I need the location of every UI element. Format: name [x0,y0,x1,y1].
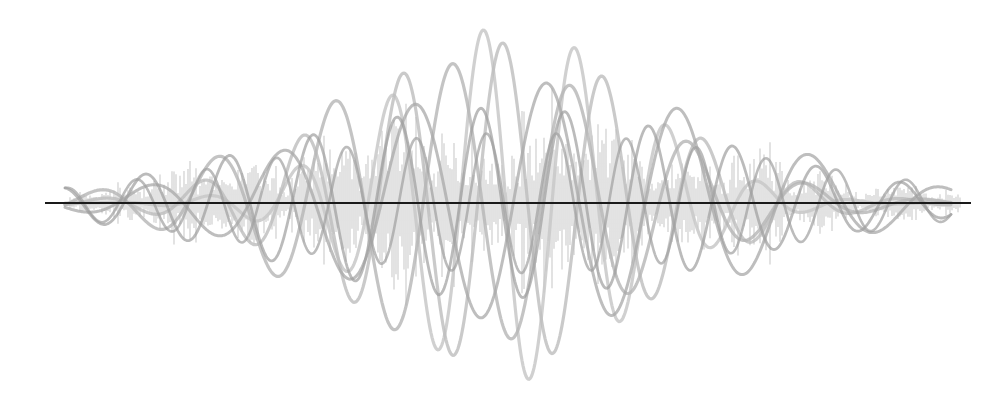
waveform-svg [0,0,1000,410]
waveform-illustration [0,0,1000,410]
